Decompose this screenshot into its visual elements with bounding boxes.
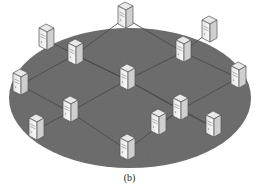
server-icon — [206, 111, 221, 137]
server-icon — [29, 114, 44, 140]
server-icon — [202, 16, 217, 42]
server-icon — [120, 134, 135, 160]
server-icon — [13, 69, 28, 95]
figure-caption: (b) — [0, 172, 259, 183]
server-icon — [176, 36, 191, 62]
server-icon — [68, 39, 83, 65]
server-icon — [63, 96, 78, 122]
server-icon — [151, 109, 166, 135]
server-icon — [118, 2, 133, 28]
network-diagram — [0, 0, 259, 191]
server-icon — [173, 94, 188, 120]
server-icon — [120, 64, 135, 90]
server-icon — [39, 24, 54, 50]
server-icon — [231, 62, 246, 88]
